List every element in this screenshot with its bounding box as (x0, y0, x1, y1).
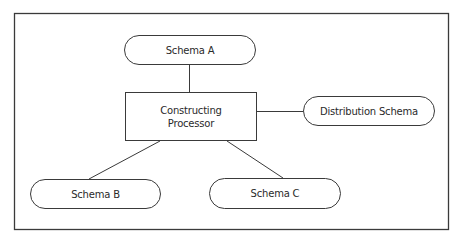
label-processor-line1: Constructing (160, 104, 222, 117)
label-distribution-schema: Distribution Schema (303, 96, 435, 126)
label-schema-c: Schema C (209, 178, 341, 209)
edge-processor-to-schema-b (89, 141, 160, 179)
edge-processor-to-schema-c (227, 141, 283, 178)
label-processor-line2: Processor (168, 117, 214, 130)
label-constructing-processor: Constructing Processor (125, 92, 257, 141)
label-schema-a: Schema A (124, 35, 256, 65)
label-schema-b: Schema B (30, 179, 161, 209)
